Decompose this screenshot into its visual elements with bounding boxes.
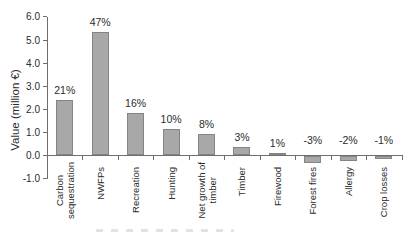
x-category-label: Crop losses <box>378 167 389 217</box>
y-tick-label: -1.0 <box>7 173 40 184</box>
bar-value-label: 21% <box>43 84 87 96</box>
y-tick <box>43 40 47 41</box>
bar-value-label: 47% <box>78 16 122 28</box>
x-tick <box>260 156 261 160</box>
x-category-label: Net growth of timber <box>196 162 218 219</box>
x-tick <box>189 156 190 160</box>
y-tick-label: 6.0 <box>7 11 40 22</box>
x-tick <box>118 156 119 160</box>
y-tick <box>43 109 47 110</box>
x-category-label: Timber <box>236 167 247 196</box>
bar-9 <box>340 156 357 162</box>
x-tick <box>47 156 48 160</box>
x-tick <box>153 156 154 160</box>
x-category-label: Allergy <box>343 167 354 196</box>
y-tick <box>43 132 47 133</box>
x-tick <box>82 156 83 160</box>
bar-7 <box>269 153 286 156</box>
x-category-label: Forest fires <box>307 167 318 215</box>
x-category-label: NWFPs <box>95 167 106 200</box>
y-tick <box>43 63 47 64</box>
y-tick-label: 4.0 <box>7 58 40 69</box>
x-category-label: Hunting <box>166 167 177 200</box>
bar-2 <box>92 32 109 156</box>
bar-value-label: 16% <box>114 97 158 109</box>
x-tick <box>224 156 225 160</box>
x-category-label: Recreation <box>130 167 141 213</box>
x-category-label: Carbon sequestration <box>54 162 76 219</box>
x-tick <box>331 156 332 160</box>
y-tick-label: 5.0 <box>7 35 40 46</box>
y-tick-label: 0.0 <box>7 150 40 161</box>
x-tick <box>366 156 367 160</box>
bar-8 <box>304 156 321 164</box>
bar-chart: 6.05.04.03.02.01.00.0-1.0Value (million … <box>0 0 408 234</box>
bar-4 <box>163 129 180 156</box>
y-tick <box>43 178 47 179</box>
bar-value-label: 8% <box>185 118 229 130</box>
bar-5 <box>198 134 215 155</box>
bar-10 <box>375 156 392 159</box>
bar-1 <box>56 100 73 155</box>
y-axis-title: Value (million €) <box>9 69 22 151</box>
y-tick <box>43 16 47 17</box>
x-category-label: Firewood <box>272 167 283 206</box>
bar-value-label: -1% <box>362 134 406 146</box>
bar-3 <box>127 113 144 156</box>
cropped-caption-remnant <box>96 229 234 232</box>
x-tick <box>402 156 403 160</box>
bar-6 <box>233 147 250 156</box>
bar-chart-figure: 6.05.04.03.02.01.00.0-1.0Value (million … <box>0 0 408 234</box>
x-tick <box>295 156 296 160</box>
